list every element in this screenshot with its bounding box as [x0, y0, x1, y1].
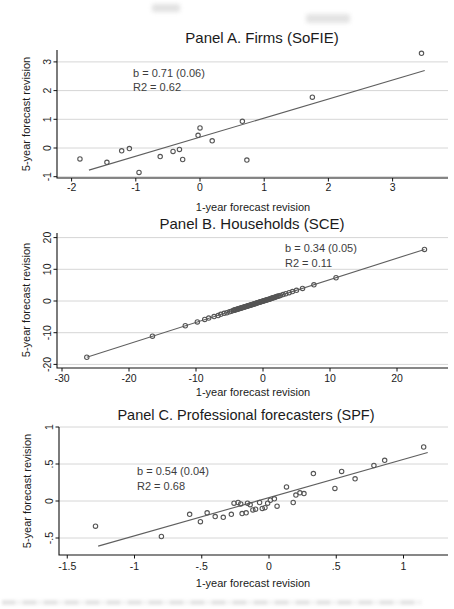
panel-a-xaxis-label: 1-year forecast revision: [196, 201, 310, 213]
x-tick-label: -20: [121, 372, 136, 384]
x-tick-label: 20: [391, 372, 403, 384]
y-tick-label: 0: [41, 298, 53, 304]
scatter-point: [196, 133, 200, 137]
scatter-point: [253, 507, 257, 511]
x-tick-label: -1: [130, 560, 139, 572]
x-tick-label: 0: [260, 372, 266, 384]
x-tick-label: 1: [261, 181, 267, 193]
scatter-point: [93, 524, 97, 528]
panel-a-annotation-b: b = 0.71 (0.06): [133, 67, 205, 79]
scatter-point: [105, 160, 109, 164]
y-tick-label: 1: [43, 424, 55, 430]
x-tick-label: 1: [401, 560, 407, 572]
scatter-point: [198, 126, 202, 130]
x-tick-label: -10: [188, 372, 203, 384]
scatter-point: [382, 458, 386, 462]
y-tick-label: -.5: [43, 532, 55, 544]
y-tick-label: -10: [41, 325, 53, 340]
y-tick-label: -20: [41, 357, 53, 372]
panel-c-yaxis-label: 5-year forecast revision: [21, 434, 33, 548]
panel-a-plot-area: -2-10123-10123: [41, 50, 448, 193]
scatter-point: [229, 512, 233, 516]
y-tick-label: 0: [43, 498, 55, 504]
scatter-point: [333, 486, 337, 490]
figure-page: Panel A. Firms (SoFIE) -2-10123-10123 b …: [0, 0, 454, 609]
scatter-point: [353, 477, 357, 481]
y-tick-label: .5: [43, 459, 55, 468]
panel-a-yaxis-label: 5-year forecast revision: [20, 57, 32, 171]
x-tick-label: -1.5: [58, 560, 76, 572]
scatter-point: [137, 170, 141, 174]
x-tick-label: 10: [324, 372, 336, 384]
scatter-point: [205, 511, 209, 515]
scatter-point: [311, 471, 315, 475]
panel-c-xaxis-label: 1-year forecast revision: [196, 577, 310, 589]
scatter-point: [119, 149, 123, 153]
panel-b-yaxis-label: 5-year forecast revision: [20, 243, 32, 357]
axis-frame: [59, 427, 448, 555]
scatter-point: [127, 146, 131, 150]
panel-b-xaxis-label: 1-year forecast revision: [196, 386, 310, 398]
y-tick-label: 10: [41, 263, 53, 275]
x-tick-label: 0: [197, 181, 203, 193]
scatter-point: [245, 158, 249, 162]
scatter-point: [419, 51, 423, 55]
x-tick-label: 0: [266, 560, 272, 572]
scatter-point: [263, 505, 267, 509]
panel-c-annotation-r2: R2 = 0.68: [137, 480, 185, 492]
y-tick-label: -1: [41, 172, 53, 181]
panel-c-plot-area: -1.5-1-.50.51-.50.51: [43, 424, 448, 572]
panel-c-annotation-b: b = 0.54 (0.04): [137, 465, 209, 477]
y-tick-label: 20: [41, 232, 53, 244]
x-tick-label: -.5: [196, 560, 208, 572]
x-tick-label: 2: [325, 181, 331, 193]
scatter-point: [187, 512, 191, 516]
panel-b-plot-area: -30-20-1001020-20-1001020: [41, 232, 448, 384]
scatter-point: [284, 485, 288, 489]
x-tick-label: -1: [131, 181, 140, 193]
x-tick-label: .5: [332, 560, 341, 572]
scatter-point: [180, 157, 184, 161]
y-tick-label: 1: [41, 116, 53, 122]
y-tick-label: 3: [41, 59, 53, 65]
panel-b-annotation-b: b = 0.34 (0.05): [285, 242, 357, 254]
scatter-point: [78, 157, 82, 161]
scatter-point: [213, 514, 217, 518]
panel-b-annotation-r2: R2 = 0.11: [285, 257, 332, 269]
scatter-point: [198, 520, 202, 524]
panel-c-title: Panel C. Professional forecasters (SPF): [117, 407, 374, 423]
three-panel-scatter-figure: Panel A. Firms (SoFIE) -2-10123-10123 b …: [0, 0, 454, 609]
x-tick-label: -2: [67, 181, 76, 193]
y-tick-label: 2: [41, 88, 53, 94]
scatter-point: [272, 497, 276, 501]
panel-b-title: Panel B. Households (SCE): [159, 215, 344, 232]
scatter-point: [275, 504, 279, 508]
scatter-point: [158, 154, 162, 158]
y-tick-label: 0: [41, 145, 53, 151]
scatter-point: [171, 149, 175, 153]
panel-a-annotation-r2: R2 = 0.62: [133, 81, 181, 93]
x-tick-label: 3: [390, 181, 396, 193]
x-tick-label: -30: [54, 372, 69, 384]
scatter-point: [310, 95, 314, 99]
scatter-point: [210, 139, 214, 143]
panel-a-title: Panel A. Firms (SoFIE): [185, 29, 338, 46]
axis-frame: [57, 50, 448, 178]
scatter-point: [421, 445, 425, 449]
scatter-point: [221, 515, 225, 519]
scatter-point: [339, 469, 343, 473]
